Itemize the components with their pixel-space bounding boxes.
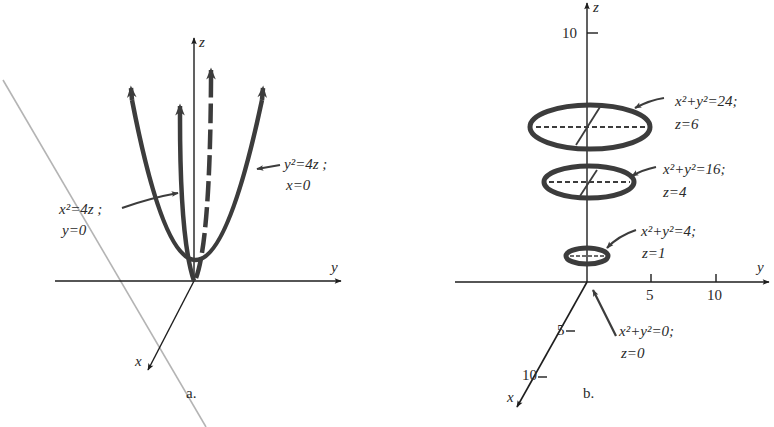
panel-a bbox=[3, 38, 341, 427]
panel-b bbox=[455, 3, 769, 407]
y-tick-10: 10 bbox=[707, 287, 722, 304]
annotation-arrow-0 bbox=[593, 290, 616, 336]
guide-line bbox=[3, 80, 206, 427]
x-axis-label-a: x bbox=[135, 352, 142, 371]
x-tick-5: 5 bbox=[557, 322, 565, 339]
annotation-0-equation: x²+y²=0; bbox=[619, 322, 674, 341]
level-curve-z6 bbox=[530, 105, 650, 149]
annotation-arrow-24 bbox=[635, 98, 664, 108]
y-tick-5: 5 bbox=[646, 287, 654, 304]
annotation-xz-plane: y=0 bbox=[62, 221, 86, 240]
annotation-24-equation: x²+y²=24; bbox=[675, 92, 738, 111]
annotation-yz-equation: y²=4z ; bbox=[284, 155, 327, 174]
panel-a-label: a. bbox=[186, 385, 196, 402]
annotation-0-plane: z=0 bbox=[621, 344, 644, 363]
z-tick-10: 10 bbox=[562, 25, 577, 42]
annotation-16-equation: x²+y²=16; bbox=[663, 160, 726, 179]
figure-canvas bbox=[0, 0, 774, 427]
annotation-arrow-yz bbox=[257, 165, 280, 169]
z-axis-label-a: z bbox=[199, 33, 205, 52]
parabola-xz-back bbox=[196, 82, 211, 278]
panel-b-label: b. bbox=[583, 385, 594, 402]
annotation-16-plane: z=4 bbox=[663, 183, 686, 202]
annotation-arrow-4 bbox=[607, 230, 636, 248]
x-tick-10: 10 bbox=[522, 367, 537, 384]
parabola-yz bbox=[132, 100, 262, 260]
annotation-xz-equation: x²=4z ; bbox=[59, 200, 102, 219]
annotation-24-plane: z=6 bbox=[675, 115, 698, 134]
level-curve-z4 bbox=[544, 166, 634, 198]
y-axis-label-a: y bbox=[331, 258, 338, 277]
z-axis-label-b: z bbox=[593, 0, 599, 17]
x-axis-label-b: x bbox=[507, 388, 514, 407]
x-axis-b bbox=[517, 282, 587, 407]
parabola-xz-front bbox=[180, 118, 194, 281]
annotation-4-plane: z=1 bbox=[642, 244, 665, 263]
annotation-arrow-16 bbox=[632, 167, 656, 176]
y-axis-label-b: y bbox=[757, 258, 764, 277]
x-axis-a bbox=[148, 281, 194, 370]
annotation-arrow-xz bbox=[122, 193, 178, 208]
annotation-yz-plane: x=0 bbox=[286, 176, 310, 195]
annotation-4-equation: x²+y²=4; bbox=[641, 222, 696, 241]
